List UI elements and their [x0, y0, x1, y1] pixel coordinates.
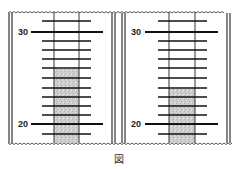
top-break-line [8, 12, 224, 14]
burette-diagram [0, 0, 238, 169]
right-label-20: 20 [131, 120, 141, 129]
left-label-30: 30 [18, 28, 28, 37]
bottom-break-line [8, 143, 232, 145]
right-label-30: 30 [131, 28, 141, 37]
figure-caption: 図 [114, 151, 124, 166]
left-label-20: 20 [18, 120, 28, 129]
